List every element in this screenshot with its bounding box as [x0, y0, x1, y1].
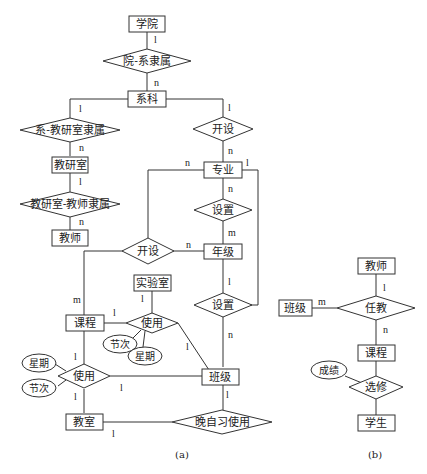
svg-text:教研室-教师隶属: 教研室-教师隶属	[30, 197, 111, 211]
svg-text:n: n	[228, 145, 233, 156]
svg-text:任教: 任教	[365, 302, 387, 315]
svg-text:设置: 设置	[212, 204, 234, 217]
entity-kecheng: 课程	[66, 315, 104, 331]
svg-text:m: m	[228, 227, 236, 238]
relationship-jys-js: 教研室-教师隶属	[20, 192, 120, 217]
svg-text:n: n	[186, 239, 191, 250]
svg-text:使用: 使用	[73, 370, 95, 383]
svg-text:l: l	[74, 391, 77, 402]
svg-text:学院: 学院	[136, 17, 158, 31]
er-diagram: 学院 系科 教研室 教师 专业 年级 实验室 课程 班级 教室 院-系隶属	[0, 0, 427, 474]
relationship-shiyong-room: 使用	[58, 364, 110, 388]
svg-text:选修: 选修	[365, 380, 387, 394]
svg-text:年级: 年级	[212, 245, 234, 259]
svg-text:m: m	[73, 294, 81, 305]
relationship-yuan-xi: 院-系隶属	[103, 49, 191, 73]
svg-text:实验室: 实验室	[136, 276, 169, 290]
relationship-shezhi-top: 设置	[194, 199, 252, 221]
svg-text:学生: 学生	[365, 416, 387, 430]
svg-text:教室: 教室	[73, 415, 95, 429]
entity-nianji: 年级	[204, 244, 242, 259]
svg-text:星期: 星期	[135, 351, 155, 362]
svg-text:教师: 教师	[365, 260, 387, 273]
entity-jiaoshi-room: 教室	[66, 414, 103, 430]
svg-text:n: n	[185, 157, 190, 168]
svg-text:课程: 课程	[365, 347, 387, 360]
svg-text:教师: 教师	[59, 232, 81, 245]
svg-text:n: n	[79, 216, 84, 227]
attribute-xingqi-lab: 星期	[128, 347, 162, 365]
entity-shiyanshi: 实验室	[134, 275, 171, 291]
entity-b-xuesheng: 学生	[358, 415, 395, 431]
svg-text:l: l	[186, 341, 189, 352]
svg-text:m: m	[318, 296, 326, 307]
relationship-kaishe-top: 开设	[193, 117, 253, 141]
relationship-b-xuanxiu: 选修	[349, 376, 403, 399]
svg-text:n: n	[79, 142, 84, 153]
svg-text:l: l	[228, 102, 231, 113]
relationship-shiyong-lab: 使用	[126, 313, 178, 333]
relationship-xi-jys: 系-教研室隶属	[20, 118, 120, 142]
svg-text:n: n	[228, 183, 233, 194]
entity-zhuanye: 专业	[204, 162, 242, 178]
entity-jiaoyanshi: 教研室	[52, 157, 88, 173]
svg-text:节次: 节次	[29, 382, 49, 394]
svg-text:班级: 班级	[209, 371, 231, 384]
svg-text:l: l	[112, 428, 115, 439]
svg-text:l: l	[141, 293, 144, 304]
relationship-wanzixi: 晚自习使用	[172, 410, 272, 434]
svg-text:l: l	[226, 389, 229, 400]
caption-a: (a)	[175, 449, 189, 460]
svg-text:n: n	[228, 329, 233, 340]
svg-text:l: l	[113, 307, 116, 318]
svg-text:专业: 专业	[212, 163, 234, 177]
svg-text:系科: 系科	[136, 92, 158, 106]
relationship-b-renjiao: 任教	[337, 296, 415, 320]
entity-banji: 班级	[202, 369, 239, 385]
attribute-jieci-room: 节次	[22, 379, 56, 397]
svg-text:成绩: 成绩	[319, 364, 339, 376]
svg-text:n: n	[154, 77, 159, 88]
entity-xike: 系科	[128, 91, 166, 107]
svg-text:l: l	[246, 157, 249, 168]
svg-text:l: l	[228, 276, 231, 287]
svg-text:设置: 设置	[212, 299, 234, 312]
svg-text:l: l	[79, 103, 82, 114]
entity-b-kecheng: 课程	[358, 345, 395, 361]
svg-text:教研室: 教研室	[54, 158, 87, 172]
relationship-shezhi-bottom: 设置	[194, 293, 252, 317]
svg-text:开设: 开设	[212, 123, 234, 136]
svg-text:系-教研室隶属: 系-教研室隶属	[35, 123, 105, 137]
svg-text:晚自习使用: 晚自习使用	[195, 416, 250, 429]
svg-text:开设: 开设	[137, 245, 159, 258]
svg-text:班级: 班级	[284, 302, 306, 315]
svg-text:节次: 节次	[110, 338, 130, 350]
svg-text:n: n	[383, 324, 388, 335]
entity-jiaoshi: 教师	[52, 230, 88, 246]
svg-text:星期: 星期	[29, 358, 49, 369]
svg-text:l: l	[383, 282, 386, 293]
svg-text:院-系隶属: 院-系隶属	[123, 54, 171, 68]
entity-xueyuan: 学院	[129, 16, 165, 32]
svg-text:使用: 使用	[141, 317, 163, 330]
svg-text:l: l	[120, 382, 123, 393]
relationship-kaishe-mid: 开设	[122, 238, 174, 264]
svg-text:l: l	[79, 176, 82, 187]
svg-text:l: l	[74, 351, 77, 362]
svg-text:课程: 课程	[74, 317, 96, 330]
caption-b: (b)	[368, 449, 382, 460]
entity-b-banji: 班级	[279, 300, 312, 316]
attribute-xingqi-room: 星期	[22, 354, 56, 372]
svg-text:l: l	[154, 34, 157, 45]
entity-b-jiaoshi: 教师	[358, 258, 395, 274]
attribute-b-chengji: 成绩	[311, 361, 347, 379]
